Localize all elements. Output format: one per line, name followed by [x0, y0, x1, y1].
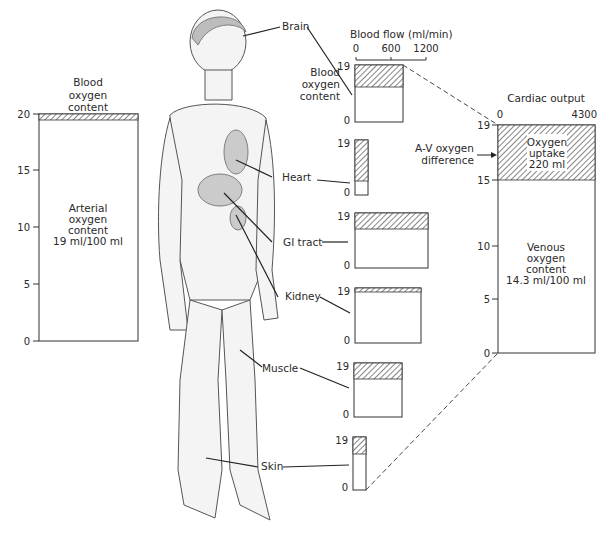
cardiac-output-chart: Cardiac output 0 4300 Oxygen uptake 220 … — [415, 92, 597, 359]
organ-bar-gi-tract: 19 0 — [337, 211, 428, 271]
human-figure-illustration — [158, 10, 278, 520]
svg-text:19: 19 — [336, 361, 349, 372]
left-tick-15: 15 — [17, 165, 30, 176]
organ-bar-muscle: 19 0 — [336, 361, 402, 420]
label-brain: Brain — [282, 20, 310, 32]
left-chart: Blood oxygen content 20 15 10 5 0 Arteri… — [17, 76, 138, 347]
left-tick-0: 0 — [24, 336, 30, 347]
neck — [205, 70, 232, 100]
right-leg — [178, 300, 222, 518]
cardiac-ytick-15: 15 — [477, 175, 490, 186]
left-tick-5: 5 — [24, 279, 30, 290]
svg-text:0: 0 — [344, 115, 350, 126]
arrowhead-icon — [491, 152, 497, 158]
organ-ylabel-3: content — [300, 90, 340, 102]
arterial-label-4: 19 ml/100 ml — [53, 235, 123, 247]
flow-tick-0: 0 — [353, 43, 359, 54]
organ-bar-brain: 19 0 — [337, 61, 403, 126]
label-gi-tract: GI tract — [283, 236, 322, 248]
liver-organ — [198, 174, 242, 206]
svg-text:0: 0 — [344, 187, 350, 198]
svg-text:0: 0 — [342, 482, 348, 493]
organ-ylabel-2: oxygen — [302, 78, 340, 90]
left-chart-title-3: content — [68, 101, 108, 113]
cardiac-output-title: Cardiac output — [507, 92, 585, 104]
left-tick-10: 10 — [17, 222, 30, 233]
cardiac-tick-4300: 4300 — [572, 109, 597, 120]
arterial-top-hatch — [39, 114, 138, 120]
organ-bar-heart: 19 0 — [337, 138, 368, 198]
label-kidney: Kidney — [285, 290, 321, 302]
label-skin: Skin — [261, 460, 283, 472]
cardiac-ytick-5: 5 — [484, 294, 490, 305]
av-difference-label-1: A-V oxygen — [415, 142, 474, 154]
organ-ylabel-1: Blood — [310, 66, 340, 78]
blood-flow-axis-label: Blood flow (ml/min) — [350, 28, 453, 40]
projection-line-top — [403, 65, 498, 125]
flow-tick-1200: 1200 — [413, 43, 438, 54]
flow-tick-600: 600 — [381, 43, 400, 54]
organ-bar-kidney: 19 0 — [337, 286, 421, 346]
svg-text:0: 0 — [344, 260, 350, 271]
heart-organ — [224, 130, 248, 174]
svg-text:19: 19 — [335, 435, 348, 446]
oxygen-flow-diagram: Blood oxygen content 20 15 10 5 0 Arteri… — [0, 0, 610, 552]
organ-bar-skin: 19 0 — [335, 435, 366, 493]
svg-text:19: 19 — [337, 211, 350, 222]
cardiac-ytick-0: 0 — [484, 348, 490, 359]
uptake-label-3: 220 ml — [529, 158, 566, 170]
svg-text:0: 0 — [344, 335, 350, 346]
cardiac-tick-0: 0 — [497, 109, 503, 120]
label-muscle: Muscle — [262, 362, 298, 374]
svg-text:19: 19 — [337, 138, 350, 149]
label-heart: Heart — [282, 171, 311, 183]
av-difference-label-2: difference — [421, 154, 474, 166]
left-tick-20: 20 — [17, 109, 30, 120]
svg-text:0: 0 — [343, 409, 349, 420]
left-leg — [222, 300, 270, 520]
cardiac-ytick-10: 10 — [477, 241, 490, 252]
cardiac-ytick-19: 19 — [477, 120, 490, 131]
svg-text:19: 19 — [337, 286, 350, 297]
venous-label-4: 14.3 ml/100 ml — [506, 274, 586, 286]
left-chart-title-1: Blood — [73, 76, 103, 88]
svg-text:19: 19 — [337, 61, 350, 72]
left-chart-title-2: oxygen — [69, 89, 107, 101]
